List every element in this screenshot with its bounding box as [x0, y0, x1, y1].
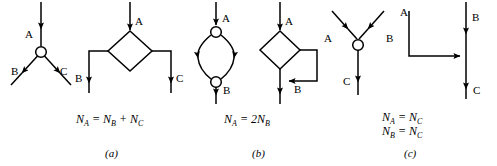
- panel-c-eq2-rhs-var: N: [409, 124, 417, 138]
- panel-c-graph-label-c: C: [343, 76, 350, 87]
- panel-a-graph-label-c: C: [60, 66, 67, 77]
- panel-c-equation-2: NB = NC: [382, 124, 422, 141]
- panel-b-eq-lhs-sub: A: [232, 119, 237, 128]
- panel-a-block-edge-c: [152, 51, 171, 83]
- panel-b-arc-left-arrow: [198, 35, 211, 58]
- panel-a-eq-lhs-var: N: [76, 112, 84, 126]
- panel-c-graph-label-a: A: [324, 33, 332, 44]
- panel-c-eq2-lhs-sub: B: [390, 131, 395, 140]
- panel-c-caption: (c): [404, 147, 416, 159]
- panel-b-eq-lhs-var: N: [224, 112, 232, 126]
- figure-container: A B C A B C NA = NB + NC (a) A B A B NA …: [0, 0, 497, 166]
- panel-a-eq-t2-sub: C: [138, 119, 143, 128]
- panel-a-decision-diamond: [108, 31, 152, 71]
- panel-c-eq2-sign: =: [398, 124, 406, 138]
- panel-c-node-circle: [353, 40, 364, 51]
- panel-c-eq2-lhs-var: N: [382, 124, 390, 138]
- panel-a-block-label-b: B: [75, 73, 82, 84]
- panel-a-block-edge-b: [89, 51, 108, 83]
- panel-a-eq-plus: +: [119, 112, 127, 126]
- panel-c-eq1-sign: =: [398, 110, 406, 124]
- panel-a-equation: NA = NB + NC: [76, 112, 143, 129]
- panel-a-block: [89, 2, 171, 93]
- panel-b-arc-right-lower: [221, 58, 234, 79]
- panel-c-graph-edge-b: [368, 11, 384, 29]
- panel-a-graph-label-a: A: [25, 29, 33, 40]
- panel-b-top-node-circle: [211, 27, 222, 38]
- panel-a-node-circle: [36, 47, 47, 58]
- panel-b-arc-right-arrow: [221, 35, 234, 58]
- panel-b-eq-rhs-sub: B: [265, 119, 270, 128]
- panel-c-graph-edge-a: [332, 11, 348, 29]
- panel-a-block-label-a: A: [135, 16, 143, 27]
- panel-a-eq-lhs-sub: A: [84, 119, 89, 128]
- panel-a-eq-t2-var: N: [130, 112, 138, 126]
- panel-c-eq1-lhs-var: N: [382, 110, 390, 124]
- panel-a-eq-t1-var: N: [103, 112, 111, 126]
- panel-c-graph: [332, 11, 384, 95]
- panel-b-graph-label-a: A: [222, 13, 230, 24]
- panel-a-eq-sign: =: [92, 112, 100, 126]
- panel-b-eq-rhs-var: N: [257, 112, 265, 126]
- panel-b-decision-diamond: [260, 31, 300, 69]
- panel-b-block-label-a: A: [285, 16, 293, 27]
- panel-c-graph-stem-b: [359, 29, 368, 39]
- panel-a-graph-edge-c: [45, 56, 61, 73]
- panel-b-block-label-b: B: [294, 84, 301, 95]
- panel-b-bottom-node-circle: [211, 77, 222, 88]
- panel-c-block-label-c: C: [473, 85, 480, 96]
- panel-b-equation: NA = 2NB: [224, 112, 270, 129]
- panel-c-block-label-a: A: [400, 7, 408, 18]
- panel-a-caption: (a): [105, 147, 118, 159]
- panel-c-block-label-b: B: [472, 12, 479, 23]
- panel-b-eq-sign: =: [240, 112, 248, 126]
- panel-c-graph-label-b: B: [386, 33, 393, 44]
- panel-c-block-edge-a: [409, 11, 460, 56]
- panel-c-block: [409, 2, 466, 99]
- panel-a-eq-t1-sub: B: [111, 119, 116, 128]
- panel-a-graph-edge-b: [22, 56, 38, 73]
- panel-a-graph-label-b: B: [11, 66, 18, 77]
- panel-c-graph-stem-a: [348, 29, 357, 39]
- panel-a-block-label-c: C: [176, 73, 183, 84]
- panel-c-eq2-rhs-sub: C: [417, 131, 422, 140]
- panel-b-graph-label-b: B: [223, 85, 230, 96]
- panel-b-caption: (b): [252, 147, 265, 159]
- panel-b-arc-left-lower: [198, 58, 211, 79]
- panel-c-eq1-rhs-var: N: [409, 110, 417, 124]
